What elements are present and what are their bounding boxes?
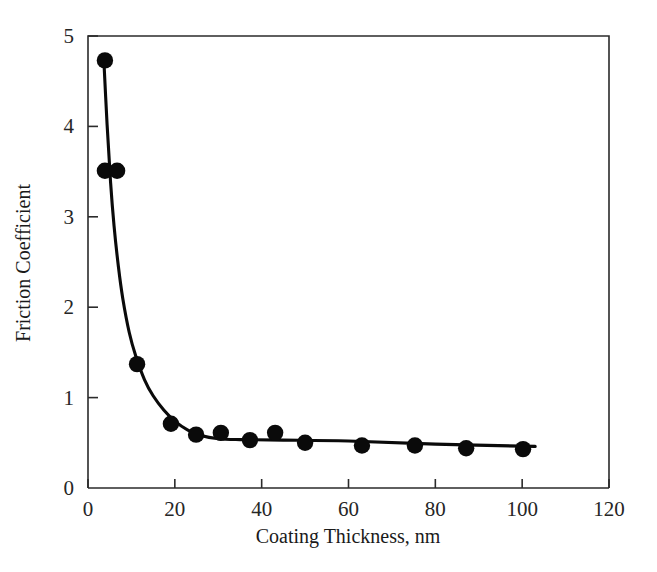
fit-curve (104, 56, 536, 447)
y-tick-label: 1 (64, 386, 75, 410)
x-axis-tick-labels: 020406080100120 (83, 497, 625, 521)
figure-container: 020406080100120 012345 Coating Thickness… (0, 0, 657, 572)
y-axis-ticks (88, 36, 98, 398)
y-axis-tick-labels: 012345 (64, 24, 75, 500)
data-point (267, 425, 283, 441)
x-tick-label: 20 (164, 497, 185, 521)
y-tick-label: 4 (64, 114, 75, 138)
x-tick-label: 100 (506, 497, 538, 521)
x-tick-label: 80 (425, 497, 446, 521)
data-point (213, 425, 229, 441)
data-point (97, 52, 113, 68)
y-tick-label: 5 (64, 24, 75, 48)
data-point (129, 356, 145, 372)
y-tick-label: 0 (64, 476, 75, 500)
y-tick-label: 2 (64, 295, 75, 319)
data-point (407, 437, 423, 453)
x-tick-label: 0 (83, 497, 94, 521)
y-tick-label: 3 (64, 205, 75, 229)
data-point (109, 163, 125, 179)
x-tick-label: 60 (338, 497, 359, 521)
data-point-group (97, 52, 532, 457)
data-point (354, 437, 370, 453)
data-point (515, 441, 531, 457)
y-axis-title: Friction Coefficient (12, 184, 34, 342)
friction-coefficient-chart: 020406080100120 012345 Coating Thickness… (0, 0, 657, 572)
data-point (188, 426, 204, 442)
x-axis-ticks (88, 479, 609, 488)
data-point (297, 435, 313, 451)
x-axis-title: Coating Thickness, nm (256, 525, 441, 548)
data-point (163, 416, 179, 432)
x-tick-label: 120 (593, 497, 625, 521)
x-tick-label: 40 (251, 497, 272, 521)
data-point (242, 432, 258, 448)
data-point (458, 440, 474, 456)
